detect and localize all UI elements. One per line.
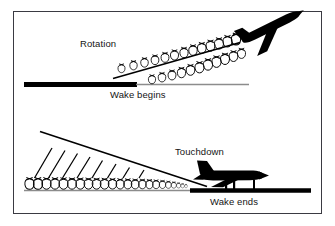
aircraft-climbing-icon — [234, 0, 313, 61]
vortex-row-landing — [25, 177, 188, 189]
label-wake-ends: Wake ends — [210, 196, 258, 207]
glideslope-ticks — [35, 148, 145, 178]
label-wake-begins: Wake begins — [110, 89, 166, 100]
label-rotation: Rotation — [80, 38, 116, 49]
diagram-canvas — [0, 0, 335, 226]
panel-takeoff — [24, 0, 313, 84]
panel-landing — [24, 132, 311, 191]
label-touchdown: Touchdown — [175, 146, 224, 157]
aircraft-landing-icon — [193, 161, 269, 190]
figure-screenshot: Rotation Wake begins Touchdown Wake ends — [0, 0, 335, 226]
